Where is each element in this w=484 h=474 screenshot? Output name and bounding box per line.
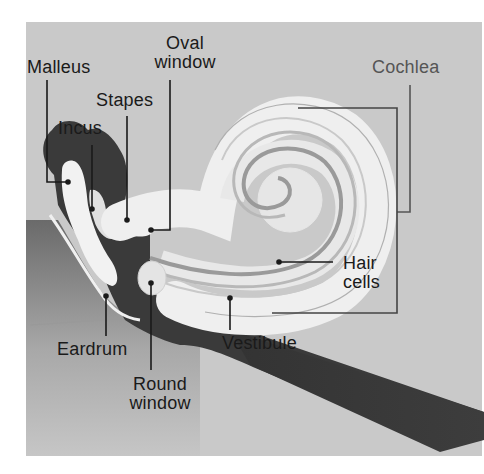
label-oval-window-line1: Oval [146, 34, 224, 53]
label-hair-cells-line2: cells [343, 273, 380, 292]
label-round-window-line2: window [120, 394, 200, 413]
label-oval-window-line2: window [146, 53, 224, 72]
label-malleus: Malleus [27, 58, 90, 77]
label-round-window: Round window [120, 375, 200, 413]
label-hair-cells-line1: Hair [343, 254, 380, 273]
label-oval-window: Oval window [146, 34, 224, 72]
label-cochlea: Cochlea [372, 58, 439, 77]
round-window [138, 261, 166, 295]
label-round-window-line1: Round [120, 375, 200, 394]
label-hair-cells: Hair cells [343, 254, 380, 292]
label-eardrum: Eardrum [57, 340, 127, 359]
inner-ear-diagram: Oval window Malleus Stapes Incus Cochlea… [0, 0, 484, 474]
label-incus: Incus [58, 119, 102, 138]
label-stapes: Stapes [96, 91, 153, 110]
label-vestibule: Vestibule [222, 334, 297, 353]
